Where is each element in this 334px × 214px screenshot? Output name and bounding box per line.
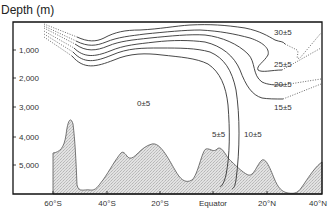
chart-plot: 1,000 2,000 3,000 4,000 5,000 60°S 40°S … — [0, 0, 334, 214]
contour-label-20: 20±5 — [274, 80, 292, 89]
x-tick-label: 20°S — [151, 199, 168, 208]
seafloor-area — [53, 120, 322, 194]
contour-label-30: 30±5 — [274, 28, 292, 37]
contour-label-25: 25±5 — [274, 60, 292, 69]
left-dotted-contours — [44, 24, 77, 56]
y-tick-label: 4,000 — [19, 133, 40, 142]
y-tick-label: 3,000 — [19, 103, 40, 112]
x-tick-label: Equator — [199, 199, 227, 208]
contour-lines — [72, 25, 285, 189]
x-tick-label: 20°N — [258, 199, 276, 208]
y-tick-label: 2,000 — [19, 74, 40, 83]
contour-label-10: 10±5 — [244, 130, 262, 139]
contour-label-15: 15±5 — [274, 103, 292, 112]
y-tick-label: 1,000 — [19, 46, 40, 55]
x-tick-label: 40°N — [309, 199, 327, 208]
x-tick-label: 60°S — [44, 199, 61, 208]
contour-label-5: 5±5 — [212, 130, 226, 139]
contour-label-0: 0±5 — [137, 99, 151, 108]
y-tick-label: 5,000 — [19, 161, 40, 170]
x-tick-label: 40°S — [98, 199, 115, 208]
